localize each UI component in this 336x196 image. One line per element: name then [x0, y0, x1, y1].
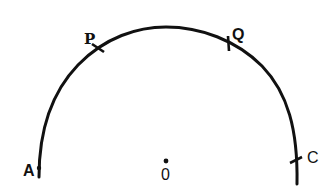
point-a-marker [37, 166, 41, 170]
label-a: A [23, 163, 35, 179]
arc-diagram: A P Q C 0 [0, 0, 336, 196]
label-q: Q [232, 27, 244, 43]
label-p: P [84, 32, 95, 47]
center-point-marker [164, 159, 169, 164]
label-c: C [307, 150, 319, 166]
label-center: 0 [161, 167, 170, 183]
point-q-tick [228, 36, 229, 51]
